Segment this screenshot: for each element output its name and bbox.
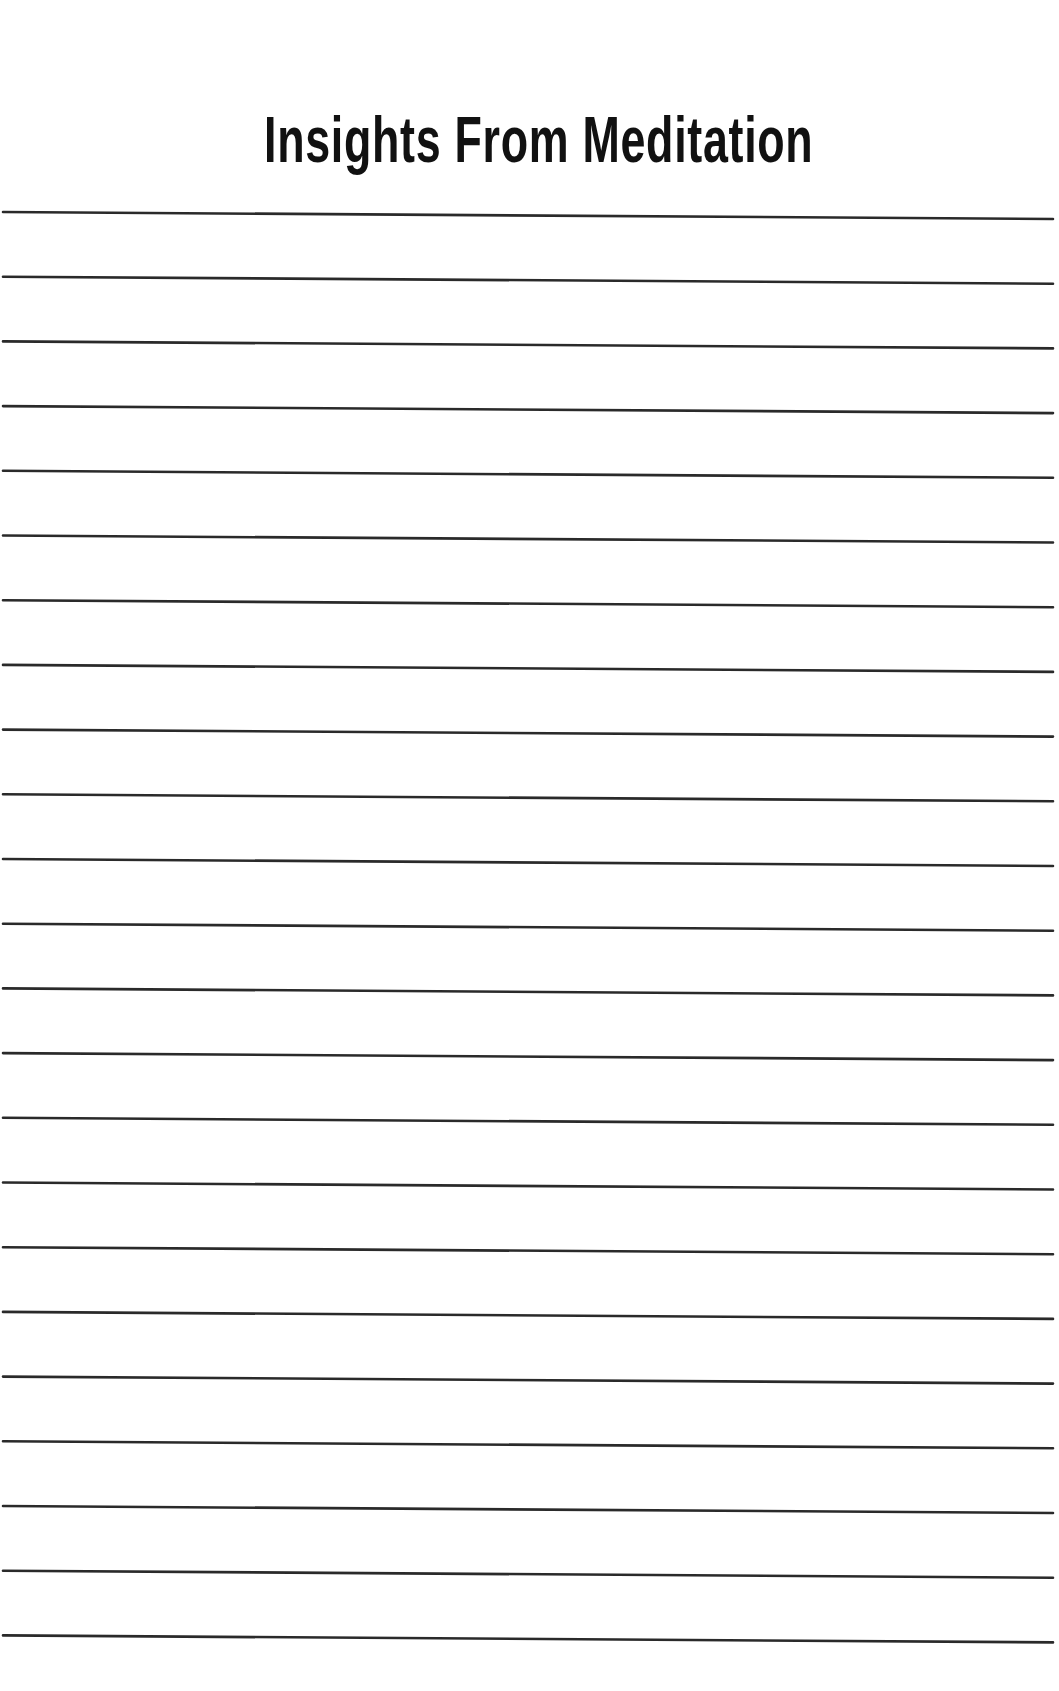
writing-line[interactable] [3, 924, 1053, 931]
writing-line[interactable] [3, 406, 1053, 413]
writing-line[interactable] [3, 794, 1053, 801]
writing-line[interactable] [3, 1118, 1053, 1125]
writing-line[interactable] [3, 341, 1053, 348]
writing-line[interactable] [3, 859, 1053, 866]
writing-line[interactable] [3, 1053, 1053, 1060]
writing-line[interactable] [3, 665, 1053, 672]
journal-page: Insights From Meditation [0, 0, 1059, 1691]
writing-line[interactable] [3, 212, 1053, 219]
writing-line[interactable] [3, 600, 1053, 607]
writing-line[interactable] [3, 988, 1053, 995]
writing-line[interactable] [3, 1635, 1053, 1642]
writing-line[interactable] [3, 1571, 1053, 1578]
writing-line[interactable] [3, 1247, 1053, 1254]
writing-line[interactable] [3, 1377, 1053, 1384]
writing-line[interactable] [3, 277, 1053, 284]
writing-line[interactable] [3, 1312, 1053, 1319]
writing-line[interactable] [3, 730, 1053, 737]
writing-line[interactable] [3, 471, 1053, 478]
writing-line[interactable] [3, 1441, 1053, 1448]
writing-line[interactable] [3, 1183, 1053, 1190]
ruled-lines [0, 0, 1059, 1691]
writing-line[interactable] [3, 1506, 1053, 1513]
writing-line[interactable] [3, 536, 1053, 543]
